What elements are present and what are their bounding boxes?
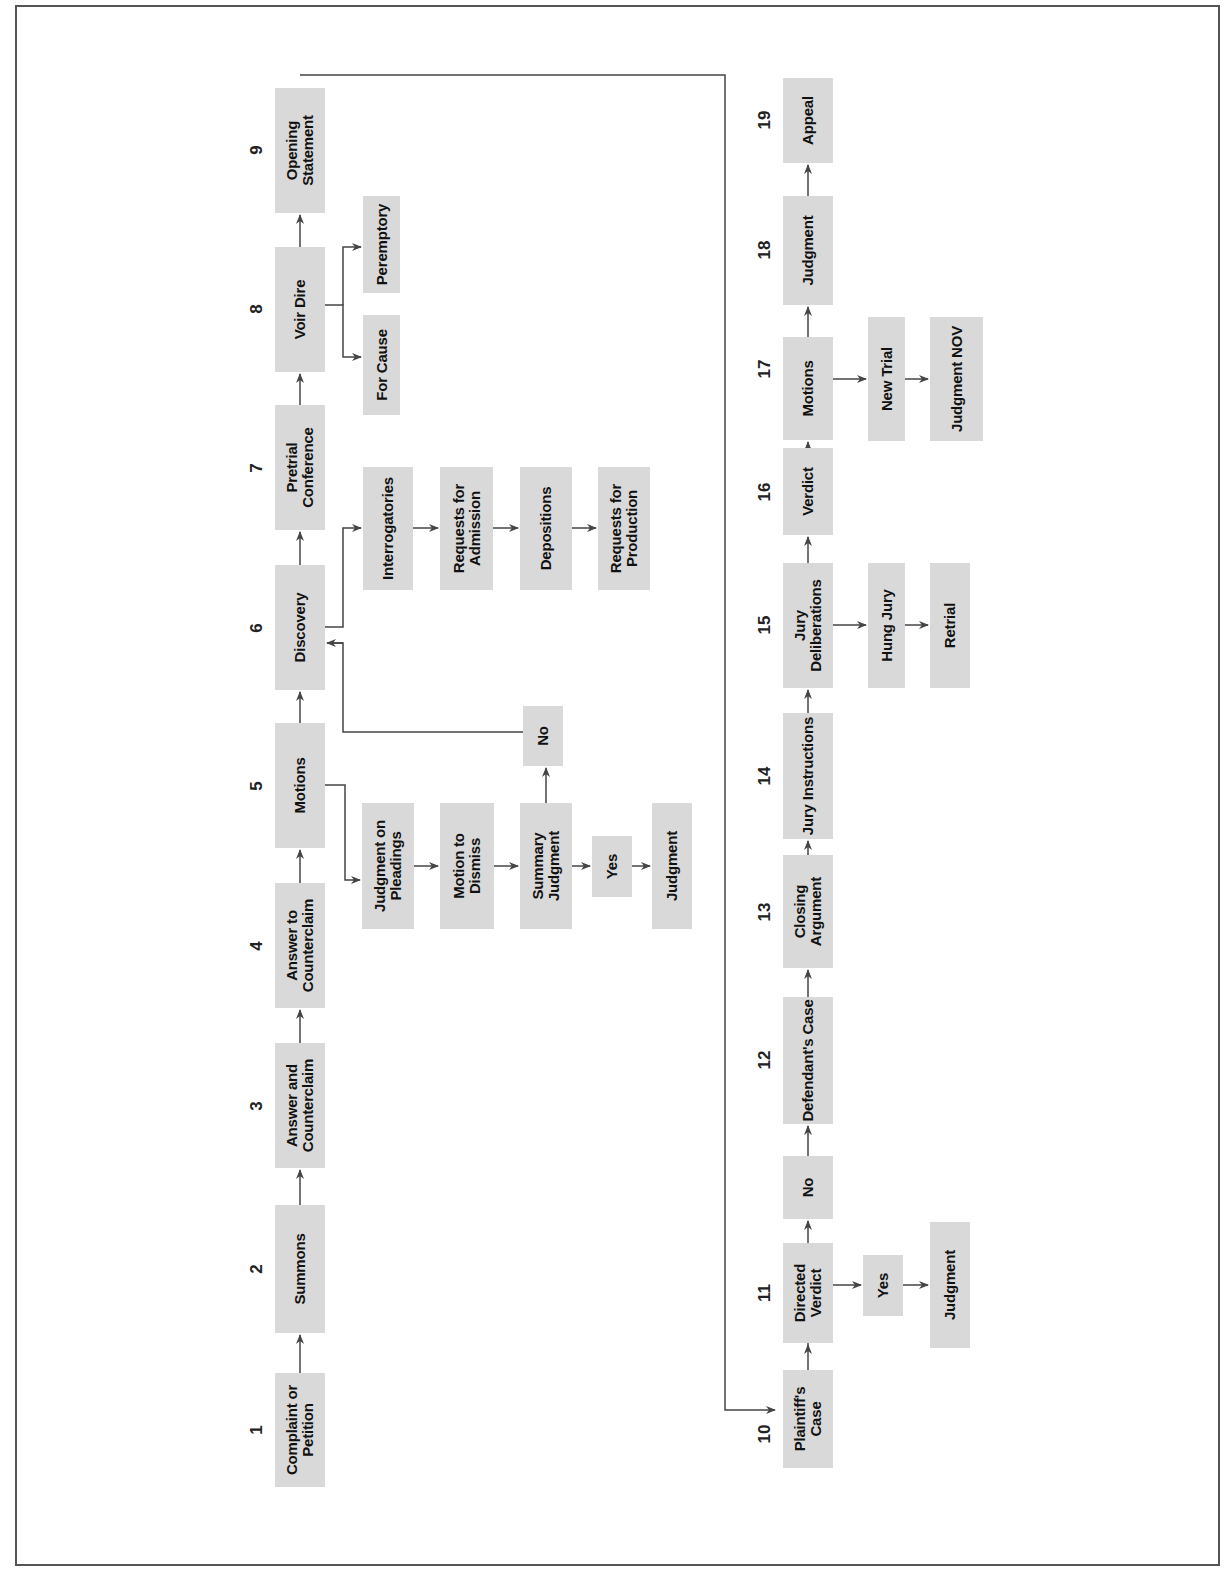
- step-number-2: 2: [247, 1249, 267, 1289]
- step-number-5: 5: [247, 766, 267, 806]
- step-opening-statement: Opening Statement: [275, 88, 325, 213]
- branch-directed-verdict-yes: Yes: [863, 1255, 903, 1316]
- step-jury-deliberations: Jury Deliberations: [783, 563, 833, 688]
- step-discovery: Discovery: [275, 565, 325, 690]
- connector-lines: [0, 0, 1226, 1580]
- step-plaintiffs-case: Plaintiff's Case: [783, 1370, 833, 1468]
- step-complaint-or-petition: Complaint or Petition: [275, 1373, 325, 1487]
- branch-new-trial: New Trial: [868, 317, 905, 441]
- branch-for-cause: For Cause: [363, 315, 400, 415]
- step-appeal: Appeal: [783, 78, 833, 163]
- branch-motion-to-dismiss: Motion to Dismiss: [440, 803, 494, 929]
- branch-retrial: Retrial: [930, 563, 970, 688]
- branch-requests-for-admission: Requests for Admission: [440, 467, 493, 590]
- branch-requests-for-production: Requests for Production: [598, 467, 650, 590]
- step-directed-verdict: Directed Verdict: [783, 1243, 833, 1343]
- step-number-17: 17: [755, 349, 775, 389]
- step-number-10: 10: [755, 1414, 775, 1454]
- branch-peremptory: Peremptory: [363, 196, 400, 293]
- branch-summary-judgment-yes: Yes: [592, 836, 632, 897]
- branch-depositions: Depositions: [520, 467, 572, 590]
- step-number-8: 8: [247, 289, 267, 329]
- step-number-13: 13: [755, 892, 775, 932]
- step-answer-and-counterclaim: Answer and Counterclaim: [275, 1043, 325, 1168]
- branch-summary-judgment: Summary Judgment: [520, 803, 572, 929]
- step-number-7: 7: [247, 448, 267, 488]
- step-number-4: 4: [247, 926, 267, 966]
- flowchart-canvas: 1 2 3 4 5 6 7 8 9 10 11 12 13 14 15 16 1…: [0, 0, 1226, 1580]
- step-number-19: 19: [755, 100, 775, 140]
- step-number-16: 16: [755, 472, 775, 512]
- step-motions: Motions: [275, 723, 325, 848]
- step-verdict: Verdict: [783, 448, 833, 535]
- step-number-15: 15: [755, 605, 775, 645]
- branch-directed-verdict-no: No: [783, 1156, 833, 1219]
- step-number-6: 6: [247, 608, 267, 648]
- step-jury-instructions: Jury Instructions: [783, 713, 833, 839]
- step-answer-to-counterclaim: Answer to Counterclaim: [275, 883, 325, 1008]
- step-summons: Summons: [275, 1205, 325, 1333]
- step-number-9: 9: [247, 130, 267, 170]
- branch-motions-judgment: Judgment: [652, 803, 692, 929]
- step-number-1: 1: [247, 1410, 267, 1450]
- branch-judgment-nov: Judgment NOV: [930, 317, 983, 441]
- step-voir-dire: Voir Dire: [275, 247, 325, 372]
- step-number-14: 14: [755, 756, 775, 796]
- branch-directed-verdict-judgment: Judgment: [930, 1222, 970, 1348]
- branch-interrogatories: Interrogatories: [363, 467, 413, 590]
- step-number-3: 3: [247, 1086, 267, 1126]
- step-pretrial-conference: Pretrial Conference: [275, 405, 325, 530]
- step-number-12: 12: [755, 1040, 775, 1080]
- branch-judgment-on-pleadings: Judgment on Pleadings: [362, 803, 414, 929]
- branch-summary-judgment-no: No: [523, 706, 563, 766]
- step-number-11: 11: [755, 1273, 775, 1313]
- step-defendants-case: Defendant's Case: [783, 997, 833, 1124]
- step-motions-post-trial: Motions: [783, 337, 833, 440]
- branch-hung-jury: Hung Jury: [868, 563, 905, 688]
- step-number-18: 18: [755, 230, 775, 270]
- step-judgment: Judgment: [783, 196, 833, 305]
- step-closing-argument: Closing Argument: [783, 855, 833, 968]
